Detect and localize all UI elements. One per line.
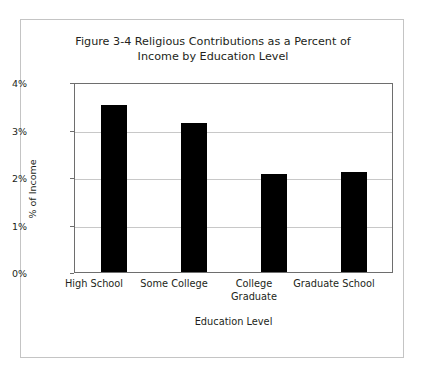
y-tick-label-3: 3% bbox=[0, 125, 27, 136]
y-tick-label-2: 2% bbox=[0, 173, 27, 184]
x-axis-title: Education Level bbox=[74, 316, 393, 327]
bar-high-school bbox=[101, 105, 127, 272]
plot-area bbox=[74, 83, 393, 273]
y-tick-label-4: 4% bbox=[0, 78, 27, 89]
bar-college-graduate bbox=[261, 174, 287, 272]
bar-graduate-school bbox=[341, 172, 367, 272]
chart-title-line-2: Income by Education Level bbox=[49, 49, 377, 64]
chart-title: Figure 3-4 Religious Contributions as a … bbox=[49, 34, 377, 64]
x-tick-label-graduate-school: Graduate School bbox=[274, 277, 394, 290]
y-tick-label-1: 1% bbox=[0, 220, 27, 231]
bar-some-college bbox=[181, 123, 207, 272]
chart-title-line-1: Figure 3-4 Religious Contributions as a … bbox=[49, 34, 377, 49]
y-tick-mark-0 bbox=[70, 273, 74, 274]
figure-frame: Figure 3-4 Religious Contributions as a … bbox=[20, 19, 404, 358]
y-tick-label-0: 0% bbox=[0, 268, 27, 279]
y-axis-title: % of Income bbox=[27, 159, 38, 218]
